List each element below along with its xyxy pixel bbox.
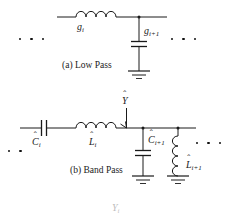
lp-shunt-capacitor-label: gi+1 (144, 26, 159, 38)
bp-series-inductor-coil (76, 122, 116, 128)
lp-right-ellipsis (171, 38, 196, 40)
bp-admittance-arrow-head (121, 122, 127, 129)
circuit-schematic-canvas (0, 0, 230, 216)
bp-shunt-capacitor-label: ˆCi+1 (148, 135, 165, 147)
bp-shunt-inductor-label: ˆLi+1 (186, 160, 202, 172)
bp-left-ellipsis (8, 150, 22, 152)
lp-series-inductor-coil (76, 11, 116, 17)
lp-left-ellipsis (19, 38, 44, 40)
bp-series-inductor-label: ˆLi (89, 137, 97, 149)
lp-series-inductor-label: gi (77, 22, 84, 34)
bottom-admittance-label: Yi (112, 203, 120, 215)
bp-admittance-label: ˆY (122, 96, 128, 106)
circuit-figure: gi gi+1 (a) Low Pass ˆCi ˆLi ˆY ˆCi+1 ˆL… (0, 0, 230, 216)
bp-series-capacitor-label: ˆCi (32, 137, 41, 149)
bp-shunt-inductor-coil (172, 136, 178, 176)
bp-right-ellipsis (196, 142, 221, 144)
band-pass-caption: (b) Band Pass (70, 166, 123, 176)
low-pass-caption: (a) Low Pass (62, 61, 112, 71)
